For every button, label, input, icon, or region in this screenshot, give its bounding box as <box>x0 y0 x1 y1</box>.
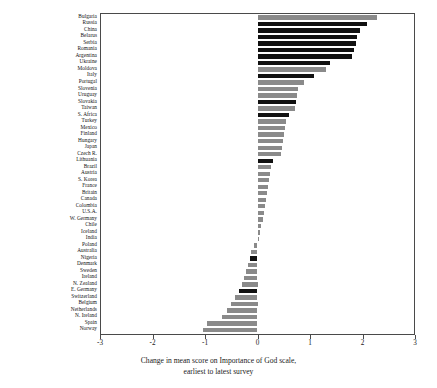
bar <box>231 302 257 306</box>
bar <box>258 61 330 65</box>
country-label: Iceland <box>2 228 97 234</box>
x-axis-title: Change in mean score on Importance of Go… <box>0 356 437 377</box>
country-label: U.S.A. <box>2 208 97 214</box>
x-tick-label: -1 <box>193 339 217 347</box>
country-label: Spain <box>2 319 97 325</box>
country-label: Canada <box>2 195 97 201</box>
bar <box>258 54 353 58</box>
bar <box>258 224 262 228</box>
bar <box>258 230 260 234</box>
bar <box>258 211 264 215</box>
bar <box>258 80 304 84</box>
x-axis-title-line-1: Change in mean score on Importance of Go… <box>0 356 437 367</box>
country-label: Denmark <box>2 260 97 266</box>
country-label: Australia <box>2 247 97 253</box>
bar <box>244 276 258 280</box>
country-label: Serbia <box>2 39 97 45</box>
country-label: Romania <box>2 45 97 51</box>
bar <box>203 328 257 332</box>
x-tick-label: 0 <box>246 339 270 347</box>
country-label: N. Zealand <box>2 280 97 286</box>
country-label: E. Germany <box>2 286 97 292</box>
country-label: Mexico <box>2 124 97 130</box>
bar <box>258 93 298 97</box>
bar <box>207 321 258 325</box>
country-label: Taiwan <box>2 104 97 110</box>
x-axis: -3-2-10123 <box>100 335 415 355</box>
bar <box>250 256 257 260</box>
bar <box>258 159 274 163</box>
country-label: Czech R. <box>2 150 97 156</box>
country-label: Italy <box>2 71 97 77</box>
x-tick-mark <box>100 335 101 339</box>
country-label: Japan <box>2 143 97 149</box>
country-label: Finland <box>2 130 97 136</box>
bar <box>258 41 356 45</box>
bar <box>258 146 282 150</box>
country-label: France <box>2 182 97 188</box>
country-label: Portugal <box>2 78 97 84</box>
bar <box>258 113 290 117</box>
country-label: Sweden <box>2 267 97 273</box>
bar <box>258 198 266 202</box>
bar <box>254 243 257 247</box>
country-label: Lithuania <box>2 156 97 162</box>
x-tick-label: -3 <box>88 339 112 347</box>
bar <box>258 172 271 176</box>
x-tick-label: -2 <box>141 339 165 347</box>
x-tick-label: 1 <box>298 339 322 347</box>
bar <box>258 15 377 19</box>
bar-row: Norway <box>0 327 437 334</box>
chart-root: BulgariaRussiaChinaBelarusSerbiaRomaniaA… <box>0 0 437 388</box>
country-label: Ukraine <box>2 58 97 64</box>
country-label: Belarus <box>2 32 97 38</box>
bar <box>258 87 298 91</box>
bar <box>258 67 326 71</box>
x-tick-mark <box>363 335 364 339</box>
country-label: Chile <box>2 221 97 227</box>
x-axis-title-line-2: earliest to latest survey <box>0 367 437 378</box>
bar <box>258 132 284 136</box>
x-tick-label: 2 <box>351 339 375 347</box>
country-label: Slovenia <box>2 85 97 91</box>
country-label: Switzerland <box>2 293 97 299</box>
bar <box>258 48 355 52</box>
country-label: Slovakia <box>2 98 97 104</box>
bar <box>258 152 281 156</box>
bar <box>258 217 263 221</box>
country-label: India <box>2 234 97 240</box>
country-label: S. Africa <box>2 111 97 117</box>
bar <box>258 165 272 169</box>
bar <box>258 35 358 39</box>
country-label: Russia <box>2 19 97 25</box>
bar <box>258 22 367 26</box>
bar <box>258 106 296 110</box>
country-label: Brazil <box>2 163 97 169</box>
country-label: Netherlands <box>2 306 97 312</box>
bar <box>258 178 270 182</box>
country-label: Argentina <box>2 52 97 58</box>
country-label: N. Ireland <box>2 312 97 318</box>
bar <box>258 100 297 104</box>
country-label: Colombia <box>2 202 97 208</box>
x-tick-mark <box>205 335 206 339</box>
country-label: Bulgaria <box>2 13 97 19</box>
bar <box>258 185 269 189</box>
bar <box>258 139 283 143</box>
country-label: Britain <box>2 189 97 195</box>
country-label: S. Korea <box>2 176 97 182</box>
bar <box>242 282 258 286</box>
bar <box>258 204 265 208</box>
country-label: Nigeria <box>2 254 97 260</box>
bar <box>248 263 257 267</box>
x-tick-mark <box>415 335 416 339</box>
bar <box>251 250 257 254</box>
bar-rows-container: BulgariaRussiaChinaBelarusSerbiaRomaniaA… <box>0 13 437 335</box>
country-label: Hungary <box>2 137 97 143</box>
country-label: Belgium <box>2 299 97 305</box>
bar <box>222 315 257 319</box>
country-label: Uruguay <box>2 91 97 97</box>
bar <box>258 191 267 195</box>
country-label: China <box>2 26 97 32</box>
bar <box>239 289 258 293</box>
